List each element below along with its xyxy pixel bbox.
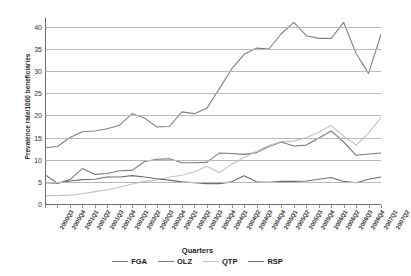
gridlines (45, 18, 381, 204)
x-tick-mark (132, 205, 133, 208)
x-tick-mark (120, 205, 121, 208)
chart-legend: FGAOLZQTPRSP (0, 257, 395, 266)
x-tick-mark (169, 205, 170, 208)
y-tick-label: 35 (34, 46, 42, 53)
y-tick-label: 10 (34, 156, 42, 163)
legend-item-fga[interactable]: FGA (112, 257, 147, 266)
x-tick-mark (381, 205, 382, 208)
y-tick-label: 30 (34, 68, 42, 75)
x-tick-mark (257, 205, 258, 208)
x-tick-mark (319, 205, 320, 208)
legend-item-qtp[interactable]: QTP (203, 257, 237, 266)
x-tick-mark (45, 205, 46, 208)
x-tick-mark (294, 205, 295, 208)
legend-item-rsp[interactable]: RSP (248, 257, 282, 266)
legend-item-olz[interactable]: OLZ (158, 257, 192, 266)
gridline (45, 93, 381, 94)
legend-label: OLZ (177, 257, 192, 266)
x-tick-mark (57, 205, 58, 208)
x-tick-mark (369, 205, 370, 208)
gridline (45, 27, 381, 28)
x-tick-mark (107, 205, 108, 208)
y-tick-label: 15 (34, 134, 42, 141)
x-tick-mark (269, 205, 270, 208)
x-tick-mark (70, 205, 71, 208)
x-axis-title: Quarters (0, 246, 395, 255)
x-tick-mark (232, 205, 233, 208)
y-axis-tick-labels: 0510152025303540 (22, 0, 42, 276)
y-tick-label: 20 (34, 112, 42, 119)
x-tick-mark (219, 205, 220, 208)
x-tick-mark (145, 205, 146, 208)
gridline (45, 160, 381, 161)
x-tick-mark (306, 205, 307, 208)
legend-label: QTP (222, 257, 237, 266)
legend-swatch-icon (248, 261, 264, 262)
legend-label: RSP (267, 257, 282, 266)
y-tick-label: 5 (38, 178, 42, 185)
x-axis-tick-labels: 2000Q32000Q42001Q12001Q22001Q32001Q42002… (45, 209, 381, 249)
x-tick-mark (207, 205, 208, 208)
y-tick-label: 25 (34, 90, 42, 97)
legend-swatch-icon (158, 261, 174, 262)
y-tick-label: 0 (38, 201, 42, 208)
y-tick-label: 40 (34, 23, 42, 30)
legend-swatch-icon (203, 261, 219, 262)
x-tick-mark (194, 205, 195, 208)
x-tick-mark (356, 205, 357, 208)
x-tick-mark (82, 205, 83, 208)
y-axis-line (45, 18, 46, 205)
x-tick-mark (331, 205, 332, 208)
legend-label: FGA (131, 257, 147, 266)
gridline (45, 71, 381, 72)
x-tick-mark (182, 205, 183, 208)
gridline (45, 138, 381, 139)
legend-swatch-icon (112, 261, 128, 262)
x-tick-mark (95, 205, 96, 208)
gridline (45, 182, 381, 183)
gridline (45, 115, 381, 116)
x-tick-mark (244, 205, 245, 208)
x-tick-mark (157, 205, 158, 208)
plot-area (45, 18, 381, 204)
x-tick-mark (344, 205, 345, 208)
gridline (45, 49, 381, 50)
x-tick-mark (281, 205, 282, 208)
